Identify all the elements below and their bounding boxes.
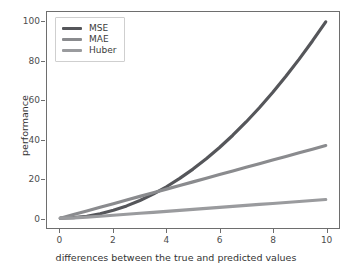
y-tick-mark bbox=[41, 179, 45, 180]
y-tick-mark bbox=[41, 21, 45, 22]
y-tick-mark bbox=[41, 100, 45, 101]
series-line-mae bbox=[60, 146, 325, 219]
legend-swatch-huber bbox=[62, 49, 82, 52]
legend-label: MAE bbox=[89, 34, 109, 45]
y-tick-label: 40 bbox=[29, 135, 40, 144]
x-tick-mark bbox=[220, 229, 221, 233]
y-tick-mark bbox=[41, 140, 45, 141]
x-tick-mark bbox=[273, 229, 274, 233]
y-tick-label: 100 bbox=[23, 16, 40, 25]
y-tick-label: 60 bbox=[29, 96, 40, 105]
x-tick-label: 0 bbox=[56, 236, 62, 245]
x-tick-label: 4 bbox=[163, 236, 169, 245]
y-tick-label: 20 bbox=[29, 175, 40, 184]
legend-item-mse: MSE bbox=[62, 23, 116, 34]
y-tick-mark bbox=[41, 219, 45, 220]
x-tick-label: 6 bbox=[217, 236, 223, 245]
y-tick-label: 0 bbox=[34, 215, 40, 224]
x-tick-label: 8 bbox=[270, 236, 276, 245]
legend-label: MSE bbox=[89, 23, 108, 34]
legend-swatch-mse bbox=[62, 27, 82, 30]
legend-item-mae: MAE bbox=[62, 34, 116, 45]
plot-area: MSEMAEHuber bbox=[46, 11, 340, 229]
x-tick-mark bbox=[59, 229, 60, 233]
x-axis-label: differences between the true and predict… bbox=[0, 252, 352, 263]
chart-figure: 020406080100 0246810 differences between… bbox=[0, 0, 352, 278]
x-axis-tick-labels: 0246810 bbox=[0, 236, 352, 250]
y-axis-label: performance bbox=[19, 56, 30, 196]
legend-swatch-mae bbox=[62, 38, 82, 41]
x-tick-mark bbox=[113, 229, 114, 233]
x-tick-mark bbox=[327, 229, 328, 233]
chart-legend: MSEMAEHuber bbox=[55, 17, 125, 62]
x-tick-label: 2 bbox=[110, 236, 116, 245]
y-tick-label: 80 bbox=[29, 56, 40, 65]
x-tick-label: 10 bbox=[321, 236, 332, 245]
y-tick-mark bbox=[41, 61, 45, 62]
legend-label: Huber bbox=[89, 45, 116, 56]
x-tick-mark bbox=[166, 229, 167, 233]
legend-item-huber: Huber bbox=[62, 45, 116, 56]
